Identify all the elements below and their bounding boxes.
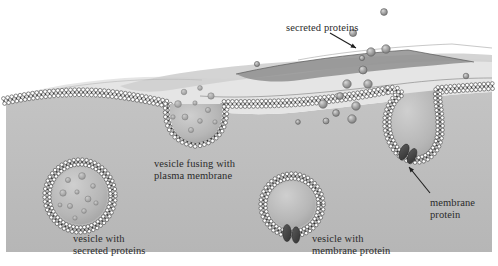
cargo-protein — [205, 107, 210, 112]
cargo-protein — [67, 203, 72, 208]
cargo-protein — [175, 101, 182, 108]
label-line: secreted proteins — [73, 245, 146, 257]
label-line: protein — [430, 209, 475, 221]
exocytosis-diagram — [0, 0, 498, 266]
label-line: membrane protein — [312, 245, 390, 257]
secreted-protein — [254, 61, 259, 66]
label-vesicle-fusing: vesicle fusing withplasma membrane — [154, 158, 235, 181]
cargo-protein — [182, 114, 188, 120]
cargo-protein — [171, 115, 175, 119]
cargo-protein — [198, 119, 203, 124]
cargo-protein — [198, 86, 203, 91]
vesicle-membrane-protein-lumen — [269, 182, 316, 229]
secreted-protein — [296, 120, 301, 125]
cargo-protein — [181, 89, 187, 95]
secreted-protein — [359, 55, 364, 60]
cargo-protein — [58, 203, 62, 207]
cargo-protein — [188, 127, 193, 132]
secreted-protein — [382, 45, 390, 53]
cargo-protein — [193, 101, 197, 105]
label-line: plasma membrane — [154, 170, 235, 182]
secreted-protein — [367, 48, 375, 56]
label-line: membrane — [430, 197, 475, 209]
secreted-protein — [381, 9, 388, 16]
cargo-protein — [208, 93, 214, 99]
label-vesicle-secreted-proteins: vesicle withsecreted proteins — [73, 233, 146, 256]
cargo-protein — [65, 177, 70, 182]
secreted-protein — [337, 93, 344, 100]
secreted-protein — [364, 80, 372, 88]
cargo-protein — [60, 190, 66, 196]
secreted-protein — [343, 80, 351, 88]
secreted-protein — [333, 110, 340, 117]
cargo-protein — [73, 216, 77, 220]
cargo-protein — [94, 201, 98, 205]
cargo-protein — [79, 173, 86, 180]
secreted-protein — [463, 73, 469, 79]
secreted-protein — [359, 66, 367, 74]
label-line: vesicle fusing with — [154, 158, 235, 170]
cargo-protein — [91, 184, 96, 189]
label-line: secreted proteins — [286, 22, 359, 34]
figure-canvas: secreted proteinsvesicle fusing withplas… — [0, 0, 498, 266]
label-vesicle-membrane-protein: vesicle withmembrane protein — [312, 233, 390, 256]
cargo-protein — [82, 209, 87, 214]
secreted-protein — [348, 115, 356, 123]
label-line: vesicle with — [73, 233, 146, 245]
label-secreted-proteins: secreted proteins — [286, 22, 359, 34]
secreted-protein — [319, 100, 327, 108]
secreted-protein — [352, 102, 360, 110]
label-line: vesicle with — [312, 233, 390, 245]
cargo-protein — [213, 120, 217, 124]
cargo-protein — [75, 190, 79, 194]
cargo-protein — [85, 196, 91, 202]
secreted-protein — [323, 118, 329, 124]
label-membrane-protein: membraneprotein — [430, 197, 475, 220]
